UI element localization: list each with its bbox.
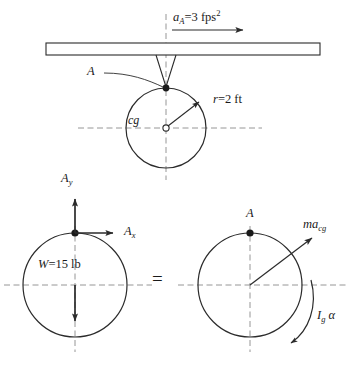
radius-unit: ft [234,92,242,106]
top-contact-point-label: A [87,65,95,78]
inertia-couple-label: Ig α [317,309,335,322]
reaction-ay-subscript: y [69,177,73,187]
inertia-force-symbol: ma [303,217,318,231]
weight-symbol: W [38,257,48,271]
inertia-force-arrow [250,238,312,285]
figure-canvas [0,0,356,368]
acceleration-unit-exponent: 2 [216,8,220,18]
reaction-ax-subscript: x [132,230,136,240]
weight-unit: lb [71,257,81,271]
right-fbd-point-a [246,229,253,236]
inertia-couple-alpha: α [329,308,336,322]
reaction-ax-label: Ax [124,225,135,238]
acceleration-unit: fps [201,10,216,24]
weight-value: 15 [55,257,68,271]
acceleration-equals: = [184,10,191,24]
inertia-couple-subscript: g [321,314,325,324]
label-a-leader-line [104,73,163,87]
right-fbd-point-label: A [246,207,254,220]
physics-figure: aA=3 fps2 A cg r=2 ft Ay Ax W=15 lb = A … [0,0,356,368]
reaction-ay-symbol: A [61,171,69,185]
acceleration-label: aA=3 fps2 [173,11,220,24]
weight-label: W=15 lb [38,258,81,271]
acceleration-subscript: A [179,16,184,26]
inertia-force-subscript: cg [318,223,326,233]
contact-point-a [163,85,170,92]
equality-sign: = [152,268,163,290]
cg-label: cg [128,114,139,126]
radius-label: r=2 ft [213,93,242,106]
radius-arrow [168,102,199,126]
radius-equals: = [218,92,225,106]
horizontal-bar [46,43,320,55]
inertia-force-label: macg [303,218,326,231]
reaction-ax-symbol: A [124,224,132,238]
reaction-ay-label: Ay [61,172,72,185]
